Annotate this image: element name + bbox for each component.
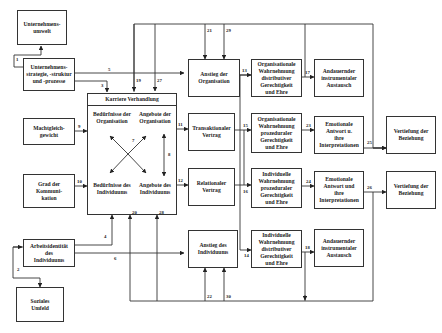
label-17: 17 (305, 70, 310, 75)
box-unternehmensstrategie: Unternehmens- strategie, -struktur und -… (23, 58, 75, 91)
box-arbeitsidentitaet: Arbeitsidentität des Individuums (23, 239, 75, 267)
label-13: 13 (242, 68, 247, 73)
label-6: 6 (114, 256, 116, 261)
box-unternehmensumwelt: Unternehmens- umwelt (17, 10, 67, 45)
label-5: 5 (108, 67, 110, 72)
box-ind-wahrnehmung-prozedural: Individuelle Wahrnehmung prozeduraler Ge… (251, 168, 302, 208)
box-grad-kommunikation: Grad der Kommuni- kation (23, 174, 75, 208)
box-austausch-1: Andauernder instrumentaler Austausch (314, 59, 364, 97)
box-org-wahrnehmung-distributiv: Organisationale Wahrnehmung distributive… (251, 59, 302, 97)
label-16: 16 (243, 189, 248, 194)
label-19: 19 (136, 78, 141, 83)
arrow-label-7: 7 (132, 138, 134, 143)
label-30: 30 (226, 294, 231, 299)
label-23: 23 (306, 123, 311, 128)
box-vertiefung-1: Vertiefung der Beziehung (386, 116, 436, 154)
box-emotionale-antwort-2: Emotionale Antwort und ihre Interpretati… (314, 171, 364, 209)
label-21: 21 (207, 28, 212, 33)
box-machtgleichgewicht: Machtgleich- gewicht (23, 118, 75, 145)
label-4: 4 (104, 234, 106, 239)
karriere-arrows (88, 94, 178, 216)
box-transaktionaler-vertrag: Transaktionaler Vertrag (188, 113, 235, 151)
label-2: 2 (17, 267, 19, 272)
label-22: 22 (207, 294, 212, 299)
label-11: 11 (178, 122, 183, 127)
label-27: 27 (157, 78, 162, 83)
label-29: 29 (226, 28, 231, 33)
box-relationaler-vertrag: Relationaler Vertrag (188, 168, 235, 206)
label-10: 10 (77, 179, 82, 184)
box-anstieg-organisation: Anstieg der Organisation (188, 59, 240, 97)
label-26: 26 (367, 185, 372, 190)
box-emotionale-antwort-1: Emotionale Antwort u. ihre Interpretatio… (314, 116, 364, 154)
label-3: 3 (101, 83, 103, 88)
karriere-verhandlung-box: Karriere Verhandlung Bedürfnisse der Org… (87, 93, 177, 215)
label-12: 12 (178, 178, 183, 183)
box-vertiefung-2: Vertiefung der Beziehung (386, 171, 436, 209)
label-25: 25 (367, 140, 372, 145)
label-24: 24 (306, 179, 311, 184)
box-austausch-2: Andauernder instrumentaler Austausch (314, 229, 364, 267)
label-14: 14 (244, 253, 249, 258)
box-anstieg-individuum: Anstieg des Individuums (188, 230, 238, 268)
arrow-label-8: 8 (168, 152, 170, 157)
box-ind-wahrnehmung-distributiv: Individuelle Wahrnehmung distributiver G… (251, 230, 302, 268)
label-18: 18 (305, 245, 310, 250)
label-9: 9 (78, 124, 80, 129)
label-20: 20 (132, 210, 137, 215)
label-28: 28 (159, 210, 164, 215)
box-soziales-umfeld: Soziales Umfeld (16, 287, 64, 322)
connector-lines (0, 0, 442, 333)
label-15: 15 (243, 123, 248, 128)
diagram-canvas: Unternehmens- umwelt Unternehmens- strat… (0, 0, 442, 333)
box-org-wahrnehmung-prozedural: Organisationale Wahrnehmung prozeduraler… (251, 113, 302, 153)
label-1: 1 (16, 57, 18, 62)
